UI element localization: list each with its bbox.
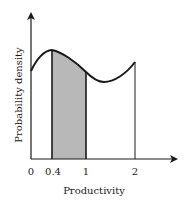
density-chart: 0 0.4 1 2 Productivity Probability densi… [0,0,192,203]
y-axis-label: Probability density [13,47,24,143]
x-axis-label: Productivity [63,185,125,196]
tick-1: 1 [83,166,89,177]
tick-2: 2 [132,166,138,177]
tick-0: 0 [28,166,34,177]
tick-0.4: 0.4 [45,166,61,177]
